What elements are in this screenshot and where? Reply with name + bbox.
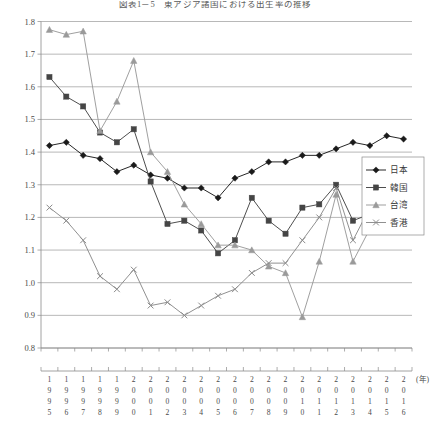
x-axis-label-digit: 0 (351, 386, 355, 395)
x-axis-label-digit: 7 (81, 408, 85, 417)
data-point-marker (283, 231, 288, 236)
x-axis-label-digit: 0 (385, 386, 389, 395)
x-axis-label-digit: 1 (81, 375, 85, 384)
x-axis-label-digit: 0 (267, 386, 271, 395)
x-axis-label-digit: 3 (182, 408, 186, 417)
data-point-marker (80, 237, 86, 243)
x-axis-label-digit: 9 (81, 397, 85, 406)
x-axis-label-digit: 2 (284, 375, 288, 384)
x-axis-label-digit: 0 (368, 386, 372, 395)
x-axis-label-digit: 0 (132, 386, 136, 395)
x-axis-label-digit: 0 (166, 386, 170, 395)
x-axis-label-digit: 0 (182, 397, 186, 406)
x-axis-label-digit: 2 (166, 375, 170, 384)
series-line (49, 77, 403, 253)
x-axis-label-digit: 1 (317, 397, 321, 406)
x-axis-label-digit: 0 (250, 397, 254, 406)
x-axis-label-digit: 0 (334, 386, 338, 395)
data-point-marker (299, 237, 305, 243)
x-axis-label-digit: 2 (149, 375, 153, 384)
x-axis-label-digit: 0 (132, 397, 136, 406)
x-axis-label-digit: 9 (284, 408, 288, 417)
x-axis-label-digit: 8 (98, 408, 102, 417)
data-point-marker (350, 237, 356, 243)
x-axis-label-digit: 2 (402, 375, 406, 384)
data-point-marker (249, 270, 255, 276)
x-axis-label-digit: 1 (368, 397, 372, 406)
data-point-marker (299, 314, 305, 320)
x-axis-label-digit: 0 (149, 397, 153, 406)
y-axis-label: 1.6 (24, 82, 35, 92)
x-axis-label-digit: 9 (98, 386, 102, 395)
x-axis-label-digit: 2 (368, 375, 372, 384)
data-point-marker (333, 146, 339, 152)
x-axis-label-digit: 8 (267, 408, 271, 417)
y-axis-label: 0.9 (24, 310, 35, 320)
x-axis-label-digit: 0 (267, 397, 271, 406)
y-axis-label: 1.8 (24, 17, 35, 27)
x-axis-label-digit: 1 (334, 397, 338, 406)
data-point-marker (182, 218, 187, 223)
data-point-marker (165, 221, 170, 226)
chart-container: 図表1－5 東アジア諸国における出生率の推移 0.80.91.01.11.21.… (0, 0, 430, 433)
x-axis-label-digit: 1 (115, 375, 119, 384)
x-axis-label-digit: 1 (300, 397, 304, 406)
y-axis-label: 0.8 (24, 343, 35, 353)
data-point-marker (47, 74, 52, 79)
x-axis-label-digit: 2 (199, 375, 203, 384)
x-axis-label-digit: 5 (385, 408, 389, 417)
data-point-marker (215, 251, 220, 256)
data-point-marker (46, 142, 52, 148)
x-axis-label-digit: 0 (199, 397, 203, 406)
data-point-marker (114, 98, 120, 104)
legend-label: 韓国 (390, 183, 408, 193)
x-axis-label-digit: 9 (98, 397, 102, 406)
x-axis-label-digit: 0 (284, 397, 288, 406)
y-axis-label: 1.2 (24, 212, 35, 222)
x-axis-label-digit: 1 (402, 397, 406, 406)
x-axis-label-digit: 2 (317, 375, 321, 384)
x-axis-label-digit: 1 (98, 375, 102, 384)
data-point-marker (47, 205, 53, 211)
x-axis-label-digit: 2 (267, 375, 271, 384)
data-point-marker (46, 26, 52, 32)
data-point-marker (148, 179, 153, 184)
legend-label: 香港 (390, 217, 408, 228)
chart-svg: 0.80.91.01.11.21.31.41.51.61.71.81995199… (0, 0, 430, 433)
x-axis-label-digit: 7 (250, 408, 254, 417)
x-axis-label-digit: 3 (351, 408, 355, 417)
x-axis-label-digit: 6 (402, 408, 406, 417)
y-axis-label: 1.5 (24, 114, 35, 124)
y-axis-label: 1.0 (24, 278, 35, 288)
x-axis-label-digit: 9 (64, 397, 68, 406)
x-axis-label-digit: 0 (182, 386, 186, 395)
data-point-marker (317, 202, 322, 207)
data-point-marker (63, 218, 69, 224)
x-axis-label-digit: 9 (64, 386, 68, 395)
x-axis-label-digit: 2 (182, 375, 186, 384)
data-point-marker (249, 169, 255, 175)
data-point-marker (80, 28, 86, 34)
data-point-marker (131, 127, 136, 132)
y-axis-label: 1.7 (24, 49, 35, 59)
x-axis-label-digit: 9 (115, 386, 119, 395)
data-point-marker (114, 286, 120, 292)
x-axis-label-digit: 0 (317, 386, 321, 395)
x-axis-label-digit: 0 (250, 386, 254, 395)
data-point-marker (249, 195, 254, 200)
data-point-marker (266, 218, 271, 223)
x-axis-label-digit: 2 (334, 408, 338, 417)
data-point-marker (282, 270, 288, 276)
x-axis-label-digit: 0 (166, 397, 170, 406)
x-axis-label-digit: 4 (199, 408, 203, 417)
x-axis-label-digit: 0 (233, 386, 237, 395)
data-point-marker (97, 273, 103, 279)
x-axis-label-digit: 0 (284, 386, 288, 395)
x-axis-label-digit: 2 (300, 375, 304, 384)
x-axis-label-digit: 9 (115, 397, 119, 406)
data-point-marker (198, 303, 204, 309)
x-axis-label-digit: 0 (216, 397, 220, 406)
x-axis-label-digit: 2 (334, 375, 338, 384)
data-point-marker (316, 152, 322, 158)
data-point-marker (199, 228, 204, 233)
